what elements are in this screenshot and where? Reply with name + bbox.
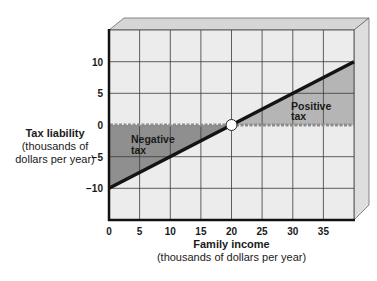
x-axis-title: Family income (thousands of dollars per … — [109, 238, 354, 264]
y-axis-title: Tax liability (thousands of dollars per … — [0, 127, 110, 166]
y-tick-labels: 10 5 0 −5 −10 — [86, 57, 103, 195]
x-tick-label: 15 — [195, 226, 207, 237]
box-right-face — [354, 18, 369, 220]
breakeven-point-marker — [226, 120, 237, 131]
y-tick-label: −10 — [86, 183, 103, 194]
x-tick-label: 0 — [106, 226, 112, 237]
x-tick-label: 25 — [257, 226, 269, 237]
y-axis-title-sub-line2: dollars per year) — [0, 153, 110, 166]
y-axis-title-sub-line1: (thousands of — [0, 140, 110, 153]
x-axis-title-main: Family income — [109, 238, 354, 251]
x-tick-label: 30 — [287, 226, 299, 237]
x-tick-label: 35 — [318, 226, 330, 237]
x-tick-label: 20 — [226, 226, 238, 237]
negative-tax-label-line2: tax — [131, 144, 146, 156]
x-tick-label: 5 — [137, 226, 143, 237]
x-axis-title-sub: (thousands of dollars per year) — [109, 251, 354, 264]
positive-tax-label-line2: tax — [291, 110, 306, 122]
y-tick-label: 10 — [92, 57, 104, 68]
y-axis-title-main: Tax liability — [0, 127, 110, 140]
x-tick-label: 10 — [165, 226, 177, 237]
x-tick-labels: 0 5 10 15 20 25 30 35 — [106, 226, 329, 237]
y-tick-label: 5 — [97, 88, 103, 99]
box-top-face — [109, 18, 369, 30]
